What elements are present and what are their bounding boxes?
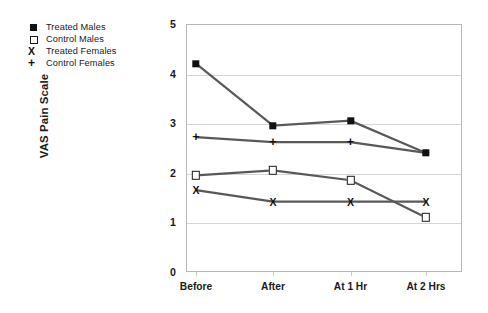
- series-line: [196, 170, 426, 217]
- series-lines: [0, 0, 488, 313]
- chart-figure: Treated Males Control Males X Treated Fe…: [0, 0, 488, 313]
- series-line: [196, 137, 426, 153]
